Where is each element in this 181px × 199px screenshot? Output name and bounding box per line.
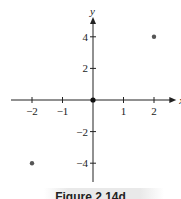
data-point — [90, 97, 95, 102]
y-axis-label: y — [89, 5, 95, 17]
y-tick-label: 4 — [83, 31, 89, 43]
scatter-plot: xy−2−112−4−224 — [0, 0, 181, 188]
figure-caption: Figure 2.14d — [0, 190, 181, 199]
y-tick-label: 2 — [83, 62, 89, 74]
x-tick-label: −2 — [26, 105, 38, 117]
x-tick-label: 2 — [151, 105, 157, 117]
y-tick-label: −4 — [76, 157, 88, 169]
data-point — [30, 161, 34, 165]
x-axis-arrow-icon — [169, 97, 176, 103]
y-axis-arrow-icon — [90, 17, 96, 24]
x-axis-label: x — [178, 94, 181, 106]
data-point — [152, 35, 156, 39]
x-tick-label: 1 — [121, 105, 127, 117]
y-tick-label: −2 — [76, 126, 88, 138]
x-tick-label: −1 — [57, 105, 69, 117]
